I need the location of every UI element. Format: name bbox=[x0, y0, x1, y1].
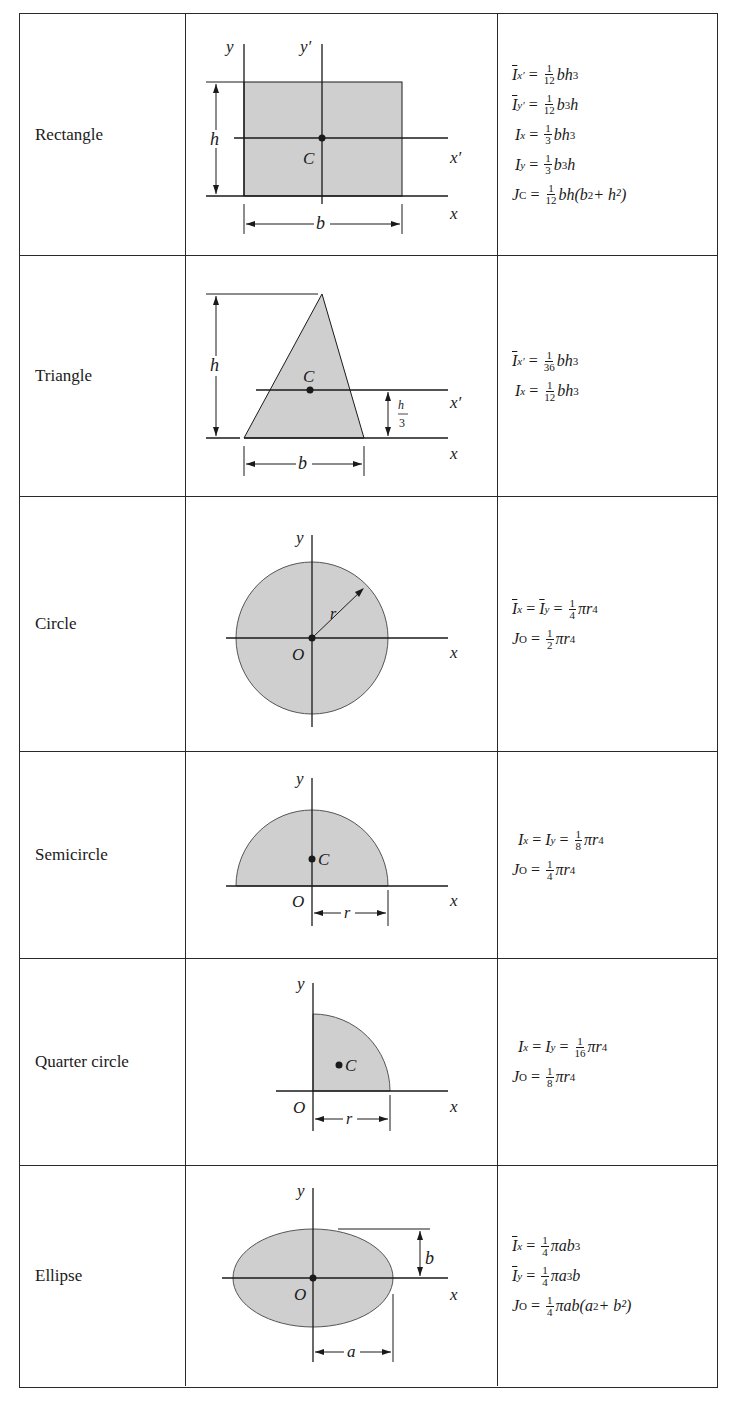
centroid-label: C bbox=[303, 367, 315, 386]
x-axis-label: x bbox=[449, 643, 458, 662]
table-row-semicircle: Semicircle y C O r x Ix=Iy=18πr4 JO=14 bbox=[20, 751, 717, 958]
y-axis-label: y bbox=[295, 1181, 305, 1200]
formula-jo: JO=12πr4 bbox=[512, 624, 717, 654]
formula-ix-iy: Ix=Iy=116πr4 bbox=[512, 1032, 717, 1062]
formula-list: Ix=Iy=14πr4 JO=12πr4 bbox=[498, 497, 717, 751]
moments-of-inertia-table: Rectangle y y′ bbox=[19, 13, 718, 1388]
formula-list: Ix′=112bh3 Iy′=112b3h Ix=13bh3 Iy=13b3h … bbox=[498, 14, 717, 255]
formula-jo: JO=14πr4 bbox=[512, 855, 717, 885]
formula-ix-iy: Ix=Iy=18πr4 bbox=[512, 825, 717, 855]
formula-list: Ix=14πab3 Iy=14πa3b JO=14πab(a2 + b²) bbox=[498, 1166, 717, 1386]
shape-name: Triangle bbox=[20, 256, 186, 496]
x-prime-axis-label: x′ bbox=[449, 393, 462, 412]
base-label: b bbox=[316, 213, 325, 233]
formula-ix-iy-bar: Ix=Iy=14πr4 bbox=[512, 594, 717, 624]
x-axis-label: x bbox=[449, 891, 458, 910]
formula-ix: Ix=112bh3 bbox=[512, 376, 717, 406]
x-axis-label: x bbox=[449, 444, 458, 463]
height-label: h bbox=[210, 355, 219, 375]
formula-jo: JO=18πr4 bbox=[512, 1062, 717, 1092]
shape-name: Rectangle bbox=[20, 14, 186, 255]
circle-figure: y r O x bbox=[186, 497, 498, 751]
semi-minor-axis-label: b bbox=[425, 1248, 434, 1268]
formula-iy: Iy=13b3h bbox=[512, 150, 717, 180]
shape-name: Ellipse bbox=[20, 1166, 186, 1386]
radius-label: r bbox=[330, 605, 337, 622]
y-axis-label: y bbox=[295, 974, 305, 993]
h-over-3-numerator: h bbox=[398, 398, 404, 412]
formula-iy-bar-prime: Iy′=112b3h bbox=[512, 90, 717, 120]
radius-label: r bbox=[346, 1110, 353, 1127]
radius-label: r bbox=[344, 904, 351, 921]
centroid-label: C bbox=[345, 1056, 357, 1075]
formula-ix: Ix=13bh3 bbox=[512, 120, 717, 150]
semi-major-axis-label: a bbox=[347, 1342, 356, 1361]
table-row-ellipse: Ellipse y b O x a bbox=[20, 1165, 717, 1386]
formula-ix-bar: Ix=14πab3 bbox=[512, 1231, 717, 1261]
centroid-label: C bbox=[303, 149, 315, 168]
x-axis-label: x bbox=[449, 1285, 458, 1304]
formula-ix-bar-prime: Ix′=112bh3 bbox=[512, 60, 717, 90]
x-axis-label: x bbox=[449, 204, 458, 223]
table-row-quarter-circle: Quarter circle y C O r x Ix=Iy=116πr4 bbox=[20, 958, 717, 1165]
formula-jo: JO=14πab(a2 + b²) bbox=[512, 1291, 717, 1321]
x-prime-axis-label: x′ bbox=[449, 148, 462, 167]
y-axis-label: y bbox=[294, 528, 304, 547]
base-label: b bbox=[298, 453, 307, 473]
origin-label: O bbox=[292, 645, 304, 664]
origin-label: O bbox=[294, 1285, 306, 1304]
y-axis-label: y bbox=[294, 769, 304, 788]
centroid-label: C bbox=[318, 850, 330, 869]
origin-label: O bbox=[292, 892, 304, 911]
height-label: h bbox=[210, 129, 219, 149]
quarter-circle-figure: y C O r x bbox=[186, 959, 498, 1165]
triangle-figure: h C h 3 x′ x b bbox=[186, 256, 498, 496]
x-axis-label: x bbox=[449, 1097, 458, 1116]
y-axis-label: y bbox=[224, 37, 234, 56]
shape-name: Circle bbox=[20, 497, 186, 751]
formula-iy-bar: Iy=14πa3b bbox=[512, 1261, 717, 1291]
formula-jc: JC=112bh(b2 + h²) bbox=[512, 180, 717, 210]
shape-name: Semicircle bbox=[20, 752, 186, 958]
ellipse-figure: y b O x a bbox=[186, 1166, 498, 1386]
shape-name: Quarter circle bbox=[20, 959, 186, 1165]
formula-list: Ix=Iy=18πr4 JO=14πr4 bbox=[498, 752, 717, 958]
y-prime-axis-label: y′ bbox=[298, 37, 312, 56]
formula-list: Ix′=136bh3 Ix=112bh3 bbox=[498, 256, 717, 496]
table-row-circle: Circle y r O x Ix=Iy=14πr4 JO=12πr4 bbox=[20, 496, 717, 751]
semicircle-figure: y C O r x bbox=[186, 752, 498, 958]
formula-ix-bar-prime: Ix′=136bh3 bbox=[512, 346, 717, 376]
table-row-triangle: Triangle bbox=[20, 255, 717, 496]
formula-list: Ix=Iy=116πr4 JO=18πr4 bbox=[498, 959, 717, 1165]
h-over-3-denominator: 3 bbox=[399, 416, 405, 430]
rectangle-figure: y y′ h C x′ x b bbox=[186, 14, 498, 255]
origin-label: O bbox=[293, 1098, 305, 1117]
table-row-rectangle: Rectangle y y′ bbox=[20, 14, 717, 255]
